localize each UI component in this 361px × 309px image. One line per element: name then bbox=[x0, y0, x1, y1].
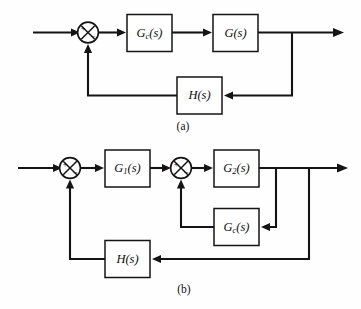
block-g1-b: G1(s) bbox=[105, 150, 150, 187]
inner-error-junction-b: + − bbox=[171, 158, 192, 179]
caption-a: (a) bbox=[177, 120, 190, 133]
controller-block-label-a: Gc(s) bbox=[137, 26, 163, 41]
inner-junction-plus-sign-b: + bbox=[174, 159, 179, 169]
block-g1-label-b: G1(s) bbox=[114, 161, 140, 176]
plant-block-a: G(s) bbox=[213, 15, 258, 52]
inner-controller-block-label-b: Gc(s) bbox=[224, 220, 250, 235]
controller-block-a: Gc(s) bbox=[127, 15, 172, 52]
feedback-block-label-a: H(s) bbox=[187, 88, 210, 102]
outer-junction-minus-sign-b: − bbox=[73, 167, 78, 177]
feedback-block-a: H(s) bbox=[177, 77, 222, 114]
block-g2-b: G2(s) bbox=[214, 150, 259, 187]
inner-junction-minus-sign-b: − bbox=[184, 167, 189, 177]
junction-minus-sign-a: − bbox=[91, 31, 96, 41]
outer-feedback-return-b bbox=[66, 180, 105, 260]
plant-block-label-a: G(s) bbox=[224, 26, 246, 40]
caption-b: (b) bbox=[177, 283, 191, 296]
block-g2-label-b: G2(s) bbox=[223, 161, 249, 176]
outer-junction-plus-sign-b: + bbox=[63, 159, 68, 169]
output-wire-b bbox=[259, 164, 348, 173]
error-junction-a: + − bbox=[78, 22, 99, 43]
inner-feedback-return-b bbox=[177, 180, 214, 228]
input-wire-a bbox=[33, 28, 80, 36]
panel-b: + − G1(s) bbox=[18, 150, 348, 296]
junction-plus-sign-a: + bbox=[81, 23, 86, 33]
wire-inner-junction-to-g2-b bbox=[191, 164, 213, 172]
outer-error-junction-b: + − bbox=[60, 158, 81, 179]
feedback-block-label-b: H(s) bbox=[115, 252, 138, 266]
wire-g1-to-inner-junction-b bbox=[150, 164, 171, 172]
output-wire-a bbox=[258, 28, 344, 37]
inner-controller-block-b: Gc(s) bbox=[214, 209, 259, 246]
wire-junction-to-g1-b bbox=[80, 164, 104, 172]
inner-feedback-path-b bbox=[261, 168, 276, 231]
feedback-block-b: H(s) bbox=[105, 241, 150, 278]
wire-controller-to-plant-a bbox=[172, 28, 212, 36]
panel-a: + − Gc(s) bbox=[33, 15, 344, 133]
block-diagram-figure: + − Gc(s) bbox=[0, 0, 361, 309]
input-wire-b bbox=[18, 164, 62, 172]
wire-junction-to-controller-a bbox=[98, 28, 126, 36]
